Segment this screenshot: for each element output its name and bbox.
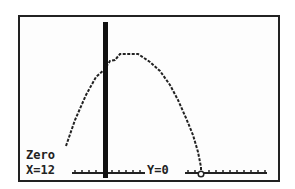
y-readout: Y=0 <box>147 164 169 176</box>
x-readout: X=12 <box>26 164 55 176</box>
parabola-curve <box>66 54 201 173</box>
zero-cursor-marker <box>198 171 204 177</box>
zero-mode-label: Zero <box>26 149 55 161</box>
vertical-line <box>103 22 108 178</box>
